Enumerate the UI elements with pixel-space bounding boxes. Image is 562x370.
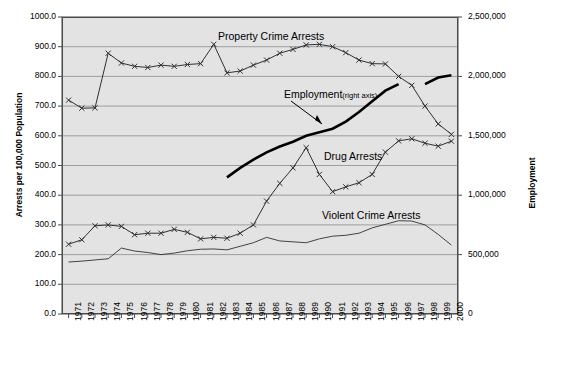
x-axis-tick-1990: 1990 bbox=[323, 302, 333, 321]
x-axis-tick-1991: 1991 bbox=[337, 302, 347, 321]
x-axis-tick-1985: 1985 bbox=[257, 302, 267, 321]
gridlines-group bbox=[62, 47, 458, 285]
x-axis-tick-1988: 1988 bbox=[297, 302, 307, 321]
x-axis-tick-1972: 1972 bbox=[86, 302, 96, 321]
y-axis-left-tick-600-0: 600.0 bbox=[4, 130, 56, 140]
x-axis-tick-1994: 1994 bbox=[376, 302, 386, 321]
x-axis-tick-1971: 1971 bbox=[73, 302, 83, 321]
x-axis-tick-1978: 1978 bbox=[165, 302, 175, 321]
y-axis-left-tick-400-0: 400.0 bbox=[4, 189, 56, 199]
x-axis-tick-1996: 1996 bbox=[403, 302, 413, 321]
x-axis-tick-1995: 1995 bbox=[389, 302, 399, 321]
x-axis-tick-1999: 1999 bbox=[442, 302, 452, 321]
x-axis-tick-1984: 1984 bbox=[244, 302, 254, 321]
x-axis-tick-1983: 1983 bbox=[231, 302, 241, 321]
x-axis-tick-1993: 1993 bbox=[363, 302, 373, 321]
y-axis-right-tick-0: 0 bbox=[468, 308, 528, 318]
x-axis-tick-1982: 1982 bbox=[218, 302, 228, 321]
y-axis-left-tick-100-0: 100.0 bbox=[4, 278, 56, 288]
y-axis-left-tick-200-0: 200.0 bbox=[4, 249, 56, 259]
x-axis-tick-2000: 2000 bbox=[455, 302, 465, 321]
chart-container: Arrests per 100,000 Population Employmen… bbox=[0, 0, 562, 370]
x-axis-tick-1987: 1987 bbox=[284, 302, 294, 321]
y-axis-right-tick-1500000: 1,500,000 bbox=[468, 130, 528, 140]
y-axis-left-tick-900-0: 900.0 bbox=[4, 41, 56, 51]
series-lines-group bbox=[69, 44, 452, 262]
series-label-drug-arrests: Drug Arrests bbox=[324, 150, 382, 162]
y-axis-left-tick-1000-0: 1000.0 bbox=[4, 11, 56, 21]
y-axis-left-tick-300-0: 300.0 bbox=[4, 219, 56, 229]
x-axis-tick-1986: 1986 bbox=[271, 302, 281, 321]
x-axis-tick-1998: 1998 bbox=[429, 302, 439, 321]
employment-label-text: Employment bbox=[284, 88, 342, 100]
x-axis-tick-1997: 1997 bbox=[416, 302, 426, 321]
y-axis-left-tick-700-0: 700.0 bbox=[4, 100, 56, 110]
x-axis-tick-1979: 1979 bbox=[178, 302, 188, 321]
series-label-property-crime-arrests: Property Crime Arrests bbox=[218, 30, 324, 42]
employment-label-axis-note: (right axis) bbox=[342, 91, 377, 100]
x-axis-tick-1974: 1974 bbox=[112, 302, 122, 321]
series-label-violent-crime-arrests: Violent Crime Arrests bbox=[322, 209, 420, 221]
y-axis-right-tick-2000000: 2,000,000 bbox=[468, 70, 528, 80]
employment-annotation-arrow bbox=[291, 101, 322, 124]
y-axis-left-tick-0-0: 0.0 bbox=[4, 308, 56, 318]
x-axis-tick-1992: 1992 bbox=[350, 302, 360, 321]
y-axis-left-tick-800-0: 800.0 bbox=[4, 70, 56, 80]
y-axis-right-tick-500000: 500,000 bbox=[468, 249, 528, 259]
y-axis-right-tick-2500000: 2,500,000 bbox=[468, 11, 528, 21]
x-axis-tick-1976: 1976 bbox=[139, 302, 149, 321]
series-label-employment: Employment(right axis) bbox=[284, 88, 377, 100]
x-axis-tick-1973: 1973 bbox=[99, 302, 109, 321]
y-axis-right-title: Employment bbox=[527, 123, 537, 243]
y-axis-left-title: Arrests per 100,000 Population bbox=[14, 75, 24, 235]
y-axis-left-tick-500-0: 500.0 bbox=[4, 160, 56, 170]
y-axis-right-tick-1000000: 1,000,000 bbox=[468, 189, 528, 199]
x-axis-tick-1980: 1980 bbox=[191, 302, 201, 321]
x-axis-tick-1981: 1981 bbox=[205, 302, 215, 321]
x-axis-tick-1977: 1977 bbox=[152, 302, 162, 321]
x-axis-tick-1989: 1989 bbox=[310, 302, 320, 321]
x-axis-tick-1975: 1975 bbox=[125, 302, 135, 321]
